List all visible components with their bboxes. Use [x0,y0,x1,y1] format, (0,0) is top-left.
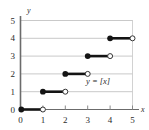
closed-dot-3 [85,53,91,59]
y-tick-label-3: 3 [11,51,16,61]
y-tick-label-2: 2 [11,69,16,79]
closed-dot-0 [18,107,24,113]
closed-dot-4 [107,35,113,41]
x-tick-label-1: 1 [41,115,46,125]
x-tick-label-0: 0 [18,115,23,125]
y-tick-label-4: 4 [11,33,16,43]
y-axis-label: y [26,6,31,15]
x-tick-label-5: 5 [130,115,135,125]
chart-figure: 5 4 3 2 1 0 0 1 2 3 4 5 y x y = [x] [0,0,149,130]
x-tick-label-4: 4 [108,115,113,125]
open-dot-3 [108,54,113,59]
open-dot-4 [130,36,135,41]
open-dot-0 [40,107,45,112]
plot-frame [21,21,133,110]
open-dot-1 [63,89,68,94]
x-axis-label: x [140,105,145,114]
x-tick-label-2: 2 [63,115,68,125]
step-function-chart: 5 4 3 2 1 0 0 1 2 3 4 5 y x y = [x] [0,0,149,130]
closed-dot-2 [62,71,68,77]
y-tick-label-1: 1 [11,87,16,97]
x-tick-label-3: 3 [85,115,90,125]
y-tick-label-5: 5 [11,16,16,26]
y-tick-label-0: 0 [11,105,16,115]
closed-dot-1 [40,89,46,95]
function-label: y = [x] [85,76,110,86]
